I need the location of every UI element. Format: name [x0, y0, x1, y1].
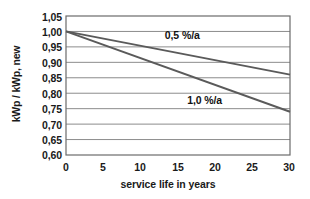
x-tick-label: 30 — [274, 161, 304, 173]
x-tick-label: 20 — [200, 161, 230, 173]
x-tick-label: 0 — [51, 161, 81, 173]
x-tick-label: 10 — [125, 161, 155, 173]
x-tick-label: 5 — [88, 161, 118, 173]
x-tick-label: 25 — [237, 161, 267, 173]
x-axis-title: service life in years — [0, 178, 310, 190]
series-annotation-1: 1,0 %/a — [187, 94, 222, 106]
x-tick-label: 15 — [163, 161, 193, 173]
chart-container: kWp / kWp, new 1,05 1,00 0,95 0,90 0,85 … — [0, 0, 310, 199]
series-annotation-0: 0,5 %/a — [165, 29, 200, 41]
